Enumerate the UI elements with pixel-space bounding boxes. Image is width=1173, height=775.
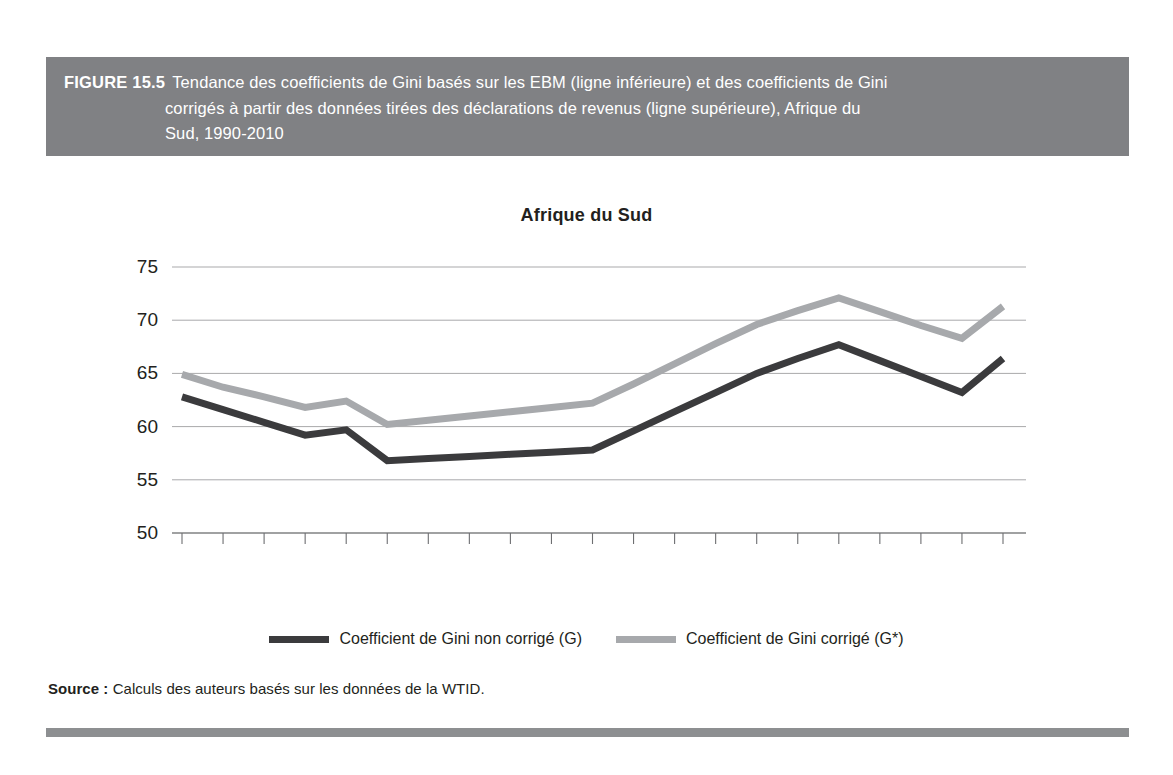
legend-label-corrected: Coefficient de Gini corrigé (G*) [686,630,904,648]
source-text: Calculs des auteurs basés sur les donnée… [113,680,485,697]
legend-label-uncorrected: Coefficient de Gini non corrigé (G) [339,630,581,648]
line-chart-svg: 505560657075 199019911992199319941995199… [0,235,1173,565]
legend-item-uncorrected: Coefficient de Gini non corrigé (G) [269,630,581,648]
data-series-group [182,298,1003,461]
figure-caption-line-1: Tendance des coefficients de Gini basés … [172,73,887,91]
figure-bottom-rule [46,728,1129,737]
y-axis-tick-label: 65 [137,362,158,383]
figure-number-label: FIGURE 15.5 [64,73,165,91]
y-axis-tick-label: 55 [137,469,158,490]
y-axis-tick-label: 70 [137,309,158,330]
y-axis-tick-label: 75 [137,256,158,277]
figure-header-band: FIGURE 15.5Tendance des coefficients de … [46,57,1129,156]
y-axis-labels-group: 505560657075 [137,256,158,543]
source-note: Source : Calculs des auteurs basés sur l… [48,680,485,697]
source-label: Source : [48,680,108,697]
chart-plot-area: 505560657075 199019911992199319941995199… [0,235,1173,565]
figure-caption: FIGURE 15.5Tendance des coefficients de … [64,70,1111,147]
legend-swatch-icon [616,636,676,643]
y-axis-tick-label: 60 [137,416,158,437]
figure-container: FIGURE 15.5Tendance des coefficients de … [0,0,1173,775]
legend-item-corrected: Coefficient de Gini corrigé (G*) [616,630,904,648]
figure-caption-line-3: Sud, 1990-2010 [165,121,1111,147]
chart-title: Afrique du Sud [0,205,1173,226]
legend-swatch-icon [269,636,329,643]
x-axis-ticks-group [182,533,1003,544]
figure-caption-line-2: corrigés à partir des données tirées des… [165,96,1111,122]
y-axis-tick-label: 50 [137,522,158,543]
chart-legend: Coefficient de Gini non corrigé (G) Coef… [0,630,1173,648]
